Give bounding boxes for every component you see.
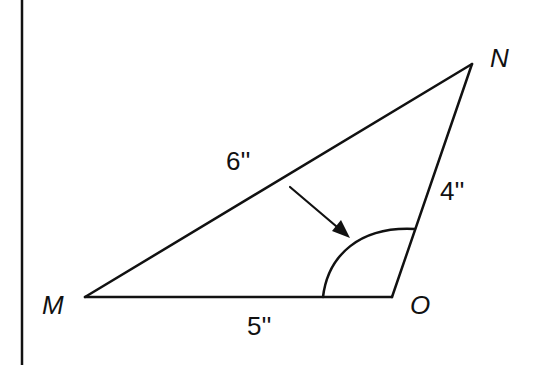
- side-label-mo: 5'': [247, 311, 271, 341]
- vertex-label-o: O: [410, 290, 430, 320]
- vertex-label-m: M: [42, 290, 64, 320]
- arrow-head-icon: [332, 220, 350, 238]
- side-mn: [85, 64, 472, 297]
- angle-arc-o: [323, 229, 415, 297]
- side-label-mn: 6'': [226, 146, 250, 176]
- triangle-diagram: 6'' 4'' 5'' M N O: [0, 0, 539, 365]
- vertex-label-n: N: [490, 43, 509, 73]
- side-label-no: 4'': [440, 176, 464, 206]
- angle-arrow-shaft: [290, 187, 343, 232]
